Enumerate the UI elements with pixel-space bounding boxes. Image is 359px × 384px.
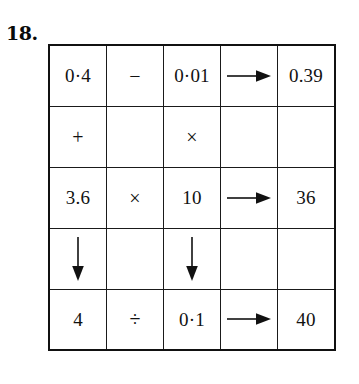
cell-r1c2-minus-operator-inner: − <box>107 46 163 106</box>
cell-r5c5-result-text: 40 <box>296 310 315 329</box>
cell-r1c2-minus-operator-text: − <box>129 66 140 86</box>
cell-r5c2-divide-operator[interactable]: ÷ <box>106 289 163 350</box>
cell-r4c1-arrow-down-inner <box>50 229 106 289</box>
puzzle-grid-body: 0·4−0·010.39+×3.6×10364÷0·140 <box>49 45 335 350</box>
cell-r4c5-hatched <box>277 228 335 289</box>
question-number-label: 18. <box>6 22 38 44</box>
cell-r1c5-result-inner: 0.39 <box>278 46 334 106</box>
puzzle-grid-container: 0·4−0·010.39+×3.6×10364÷0·140 <box>48 44 336 351</box>
cell-r3c3-value-text: 10 <box>182 188 201 207</box>
cell-r3c1-value-inner: 3.6 <box>50 168 106 228</box>
cell-r3c2-times-operator-text: × <box>129 188 140 208</box>
arrow-down-icon <box>184 236 200 282</box>
cell-r5c1-value-inner: 4 <box>50 290 106 350</box>
puzzle-grid-row: 0·4−0·010.39 <box>49 45 335 106</box>
cell-r3c5-result-text: 36 <box>296 188 315 207</box>
cell-r2c2-hatched <box>106 106 163 167</box>
cell-r2c1-plus-operator-text: + <box>72 127 83 147</box>
puzzle-grid-row: 3.6×1036 <box>49 167 335 228</box>
cell-r2c4-hatched <box>220 106 277 167</box>
cell-r2c1-plus-operator[interactable]: + <box>49 106 106 167</box>
cell-r1c5-result-text: 0.39 <box>289 66 323 85</box>
cell-r5c4-arrow-right-inner <box>221 290 277 350</box>
puzzle-grid-row <box>49 228 335 289</box>
cell-r3c5-result[interactable]: 36 <box>277 167 335 228</box>
cell-r1c1-value-text: 0·4 <box>65 66 91 85</box>
puzzle-grid-row: 4÷0·140 <box>49 289 335 350</box>
cell-r1c4-arrow-right-inner <box>221 46 277 106</box>
cell-r2c1-plus-operator-inner: + <box>50 107 106 167</box>
cell-r5c1-value-text: 4 <box>73 310 83 329</box>
cell-r5c4-arrow-right[interactable] <box>220 289 277 350</box>
cell-r5c2-divide-operator-text: ÷ <box>129 309 140 329</box>
arrow-right-icon <box>226 68 272 84</box>
cell-r4c3-arrow-down[interactable] <box>163 228 220 289</box>
puzzle-grid-row: +× <box>49 106 335 167</box>
cell-r3c3-value-inner: 10 <box>164 168 220 228</box>
cell-r3c1-value-text: 3.6 <box>66 188 90 207</box>
cell-r1c3-value-inner: 0·01 <box>164 46 220 106</box>
cell-r1c5-result[interactable]: 0.39 <box>277 45 335 106</box>
cell-r1c4-arrow-right[interactable] <box>220 45 277 106</box>
cell-r1c3-value[interactable]: 0·01 <box>163 45 220 106</box>
cell-r5c5-result-inner: 40 <box>278 290 334 350</box>
cell-r5c5-result[interactable]: 40 <box>277 289 335 350</box>
cell-r4c2-hatched <box>106 228 163 289</box>
cell-r2c3-times-operator-text: × <box>186 127 197 147</box>
cell-r3c5-result-inner: 36 <box>278 168 334 228</box>
cell-r3c2-times-operator[interactable]: × <box>106 167 163 228</box>
cell-r4c4-hatched <box>220 228 277 289</box>
arrow-right-icon <box>226 311 272 327</box>
cell-r2c3-times-operator-inner: × <box>164 107 220 167</box>
arrow-down-icon <box>70 236 86 282</box>
cell-r5c3-value[interactable]: 0·1 <box>163 289 220 350</box>
cell-r1c1-value-inner: 0·4 <box>50 46 106 106</box>
cell-r4c1-arrow-down[interactable] <box>49 228 106 289</box>
cell-r3c2-times-operator-inner: × <box>107 168 163 228</box>
cell-r5c3-value-text: 0·1 <box>179 310 205 329</box>
cell-r2c3-times-operator[interactable]: × <box>163 106 220 167</box>
cell-r5c1-value[interactable]: 4 <box>49 289 106 350</box>
cell-r4c3-arrow-down-inner <box>164 229 220 289</box>
cell-r1c3-value-text: 0·01 <box>174 66 210 85</box>
arrow-right-icon <box>226 190 272 206</box>
cell-r2c5-hatched <box>277 106 335 167</box>
cell-r1c2-minus-operator[interactable]: − <box>106 45 163 106</box>
cell-r3c1-value[interactable]: 3.6 <box>49 167 106 228</box>
cell-r3c4-arrow-right-inner <box>221 168 277 228</box>
cell-r3c3-value[interactable]: 10 <box>163 167 220 228</box>
cell-r3c4-arrow-right[interactable] <box>220 167 277 228</box>
cell-r5c3-value-inner: 0·1 <box>164 290 220 350</box>
puzzle-grid: 0·4−0·010.39+×3.6×10364÷0·140 <box>48 44 336 351</box>
cell-r1c1-value[interactable]: 0·4 <box>49 45 106 106</box>
cell-r5c2-divide-operator-inner: ÷ <box>107 290 163 350</box>
